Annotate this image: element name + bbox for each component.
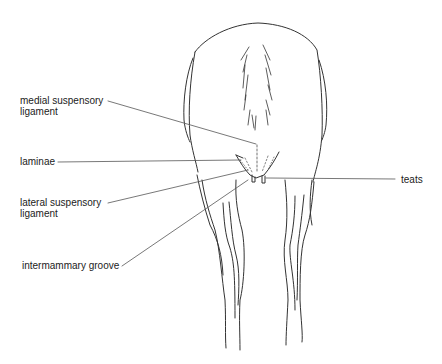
label-laminae: laminae xyxy=(20,156,55,167)
label-line: medial suspensory xyxy=(20,95,103,106)
body-outline xyxy=(184,23,327,275)
label-line: ligament xyxy=(20,106,103,117)
cow-rear-view-drawing xyxy=(0,0,442,364)
udder-anatomy-diagram: medial suspensory ligament laminae later… xyxy=(0,0,442,364)
right-hind-leg xyxy=(284,180,314,345)
label-intermammary-groove: intermammary groove xyxy=(22,260,119,271)
leader-lines xyxy=(58,101,395,266)
label-line: ligament xyxy=(20,208,101,219)
label-line: lateral suspensory xyxy=(20,197,101,208)
label-lateral-suspensory-ligament: lateral suspensory ligament xyxy=(20,197,101,219)
label-line: intermammary groove xyxy=(22,260,119,271)
left-hind-leg xyxy=(202,180,244,350)
udder xyxy=(236,145,279,183)
tail-hair-strokes xyxy=(241,45,272,130)
label-line: teats xyxy=(401,174,423,185)
label-teats: teats xyxy=(401,174,423,185)
label-line: laminae xyxy=(20,156,55,167)
label-medial-suspensory-ligament: medial suspensory ligament xyxy=(20,95,103,117)
